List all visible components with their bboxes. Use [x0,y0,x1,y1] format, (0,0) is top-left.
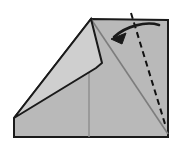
origami-diagram-svg [0,0,179,147]
origami-figure [0,0,179,147]
